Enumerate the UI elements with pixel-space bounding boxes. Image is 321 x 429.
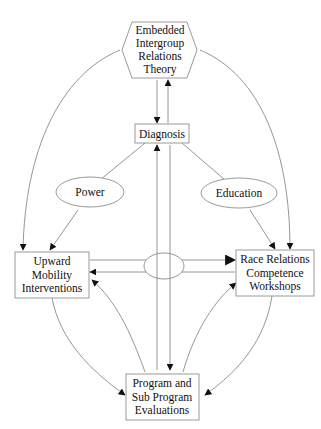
edge-power-to-upward (50, 210, 78, 250)
edge-education-to-race (250, 210, 275, 249)
node-education[interactable]: Education (201, 178, 277, 208)
node-evaluations[interactable]: Program and Sub Program Evaluations (126, 374, 199, 420)
diagram-canvas: Embedded Intergroup Relations Theory Dia… (0, 0, 321, 429)
node-power[interactable]: Power (56, 177, 124, 207)
evaluations-line-3: Evaluations (135, 404, 190, 416)
race-line-1: Race Relations (240, 253, 310, 265)
edge-race-to-evaluations (205, 296, 272, 395)
education-label: Education (216, 187, 263, 199)
edge-evaluations-to-race (183, 283, 236, 372)
theory-line-4: Theory (143, 63, 176, 76)
diagnosis-label: Diagnosis (139, 128, 186, 141)
theory-line-1: Embedded (135, 24, 184, 36)
upward-line-2: Mobility (32, 269, 73, 282)
theory-line-3: Relations (138, 50, 182, 62)
edge-evaluations-to-upward (92, 280, 145, 372)
junction-ellipse (144, 253, 184, 279)
race-line-2: Competence (246, 267, 303, 280)
race-line-3: Workshops (249, 280, 301, 293)
upward-line-3: Interventions (22, 282, 83, 294)
edge-upward-to-evaluations (52, 298, 125, 395)
evaluations-line-1: Program and (132, 377, 191, 390)
node-race[interactable]: Race Relations Competence Workshops (236, 250, 314, 296)
node-theory[interactable]: Embedded Intergroup Relations Theory (122, 22, 197, 78)
edge-diagnosis-to-education (182, 143, 225, 180)
edge-theory-to-race (200, 50, 290, 249)
node-diagnosis[interactable]: Diagnosis (135, 124, 189, 143)
evaluations-line-2: Sub Program (132, 391, 192, 404)
upward-line-1: Upward (33, 255, 70, 268)
edge-diagnosis-to-power (100, 143, 145, 180)
power-label: Power (75, 186, 105, 198)
theory-line-2: Intergroup (136, 37, 185, 50)
node-upward[interactable]: Upward Mobility Interventions (15, 252, 89, 298)
